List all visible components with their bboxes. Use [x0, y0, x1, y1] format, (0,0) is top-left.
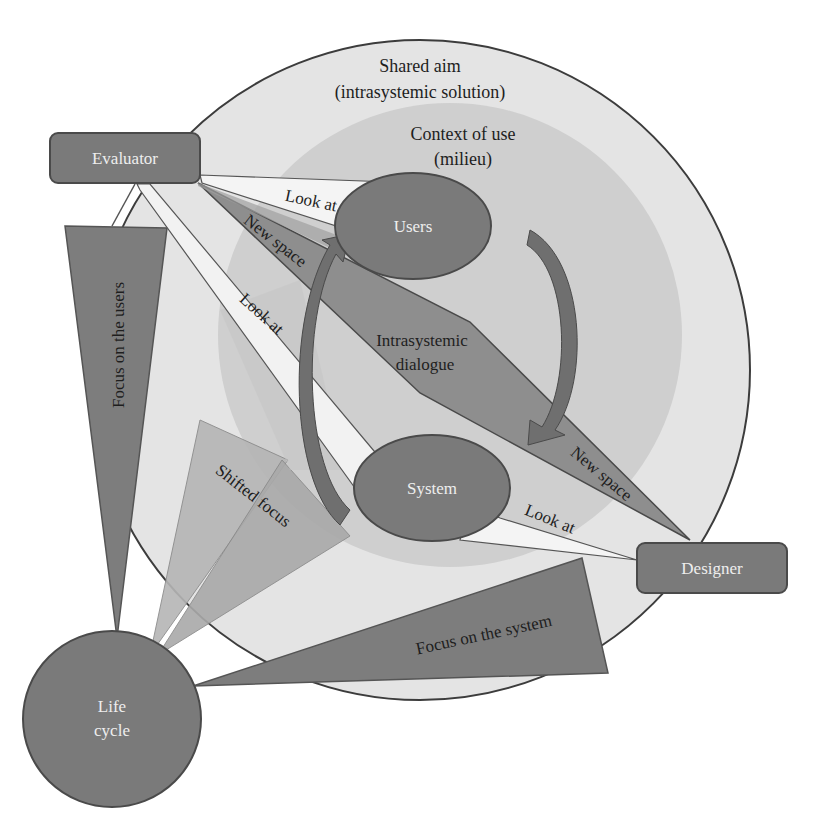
life-cycle-label-1: Life: [98, 697, 126, 716]
context-of-use-label: Context of use: [411, 124, 516, 144]
shared-aim-label: Shared aim: [379, 56, 460, 76]
designer-label: Designer: [681, 559, 743, 578]
evaluator-label: Evaluator: [92, 149, 158, 168]
system-label: System: [407, 479, 457, 498]
intrasystemic-diagram: Shared aim (intrasystemic solution) Cont…: [0, 0, 823, 826]
focus-on-users-label: Focus on the users: [109, 282, 128, 408]
intrasystemic-dialogue-label-2: dialogue: [396, 355, 455, 374]
users-label: Users: [394, 217, 433, 236]
intrasystemic-dialogue-label-1: Intrasystemic: [376, 331, 468, 350]
shared-aim-sublabel: (intrasystemic solution): [335, 82, 505, 103]
context-of-use-sublabel: (milieu): [434, 149, 492, 170]
life-cycle-node: [23, 631, 201, 807]
life-cycle-label-2: cycle: [94, 721, 130, 740]
